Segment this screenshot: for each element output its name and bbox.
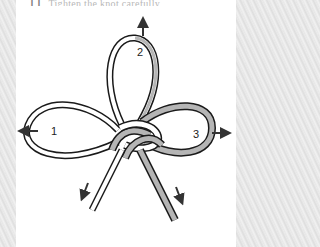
knot-diagram: 1 2 3 [0, 0, 244, 247]
loop-label-top: 2 [137, 46, 143, 58]
loop-top [110, 38, 156, 125]
loop-label-right: 3 [193, 128, 199, 140]
arrow-down-left-icon [83, 183, 88, 196]
loop-left [27, 105, 118, 156]
loop-label-left: 1 [51, 125, 57, 137]
arrow-down-right-icon [176, 187, 181, 200]
cord-tails [92, 150, 175, 220]
